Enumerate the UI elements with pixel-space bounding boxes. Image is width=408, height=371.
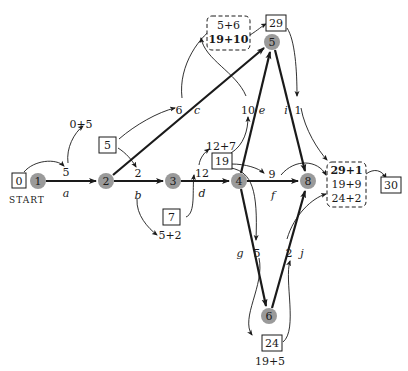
- duration-d: 12: [195, 167, 209, 180]
- sum-12-7: 12+7: [206, 140, 236, 153]
- activity-d: d: [198, 187, 205, 200]
- svg-text:7: 7: [168, 211, 175, 224]
- svg-text:19+10: 19+10: [209, 33, 249, 46]
- activity-b: b: [134, 189, 141, 202]
- svg-text:5+6: 5+6: [217, 19, 240, 32]
- duration-j: 2: [286, 247, 293, 260]
- activity-e: e: [259, 104, 266, 117]
- duration-i: 1: [295, 104, 302, 117]
- svg-text:5: 5: [104, 139, 111, 152]
- svg-text:24: 24: [265, 337, 279, 350]
- svg-text:3: 3: [170, 175, 177, 188]
- sum-19-5: 19+5: [255, 355, 285, 368]
- critical-path-diagram: 1 2 3 4 5 6 8 0 5 7 19 29: [0, 0, 408, 371]
- svg-text:29+1: 29+1: [330, 164, 362, 177]
- activity-f: f: [270, 189, 277, 202]
- svg-text:6: 6: [266, 310, 273, 323]
- time-box-node1: 0: [12, 173, 26, 188]
- sum-5-2: 5+2: [158, 229, 181, 242]
- node-5: 5: [264, 34, 280, 50]
- activity-a: a: [63, 187, 70, 200]
- svg-text:2: 2: [103, 175, 110, 188]
- duration-c: 6: [176, 104, 183, 117]
- activity-c: c: [194, 104, 200, 117]
- activity-g: g: [236, 247, 243, 260]
- svg-text:0: 0: [16, 175, 23, 188]
- options-box-node5: 5+6 19+10: [207, 16, 250, 50]
- svg-text:24+2: 24+2: [331, 192, 361, 205]
- svg-text:1: 1: [35, 175, 42, 188]
- node-3: 3: [165, 173, 181, 189]
- time-box-node3: 7: [163, 209, 180, 225]
- duration-b: 2: [135, 167, 142, 180]
- sum-0-5: 0+5: [69, 118, 92, 131]
- time-box-node8: 30: [381, 177, 401, 193]
- start-label: START: [9, 195, 45, 205]
- duration-a: 5: [63, 166, 70, 179]
- time-box-node5: 29: [266, 15, 286, 31]
- node-4: 4: [231, 173, 247, 189]
- node-8: 8: [300, 173, 316, 189]
- node-2: 2: [98, 173, 114, 189]
- options-box-node8: 29+1 19+9 24+2: [327, 162, 366, 207]
- duration-e: 10: [241, 104, 255, 117]
- svg-text:4: 4: [236, 175, 243, 188]
- activity-j: j: [297, 247, 304, 260]
- svg-text:30: 30: [384, 179, 398, 192]
- svg-text:19+9: 19+9: [331, 178, 361, 191]
- node-6: 6: [261, 308, 277, 324]
- node-1: 1: [30, 173, 46, 189]
- time-box-node2: 5: [99, 137, 116, 153]
- time-box-node4: 19: [212, 153, 232, 169]
- svg-text:8: 8: [305, 175, 312, 188]
- duration-f: 9: [269, 168, 276, 181]
- activity-i: i: [284, 104, 288, 117]
- duration-g: 5: [254, 247, 261, 260]
- svg-text:29: 29: [269, 17, 283, 30]
- time-box-node6: 24: [262, 335, 282, 351]
- svg-text:5: 5: [269, 36, 276, 49]
- svg-text:19: 19: [215, 155, 229, 168]
